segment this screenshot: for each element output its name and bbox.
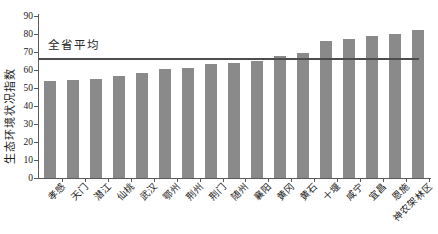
y-axis-line: [38, 14, 39, 179]
y-axis-tick: [34, 52, 38, 53]
bar-4: [113, 76, 125, 178]
x-axis-tick: [429, 179, 430, 182]
bar-2: [67, 80, 79, 178]
x-axis-tick: [245, 179, 246, 182]
y-tick-label: 80: [0, 29, 33, 40]
x-axis-tick: [223, 179, 224, 182]
x-axis-tick: [85, 179, 86, 182]
bar-5: [136, 73, 148, 178]
x-axis-tick: [268, 179, 269, 182]
y-tick-label: 0: [0, 173, 33, 184]
y-tick-label: 60: [0, 65, 33, 76]
bar-1: [44, 81, 56, 178]
bar-chart: 生态环境状况指数 全省平均 0102030405060708090孝感天门潜江仙…: [0, 0, 438, 234]
y-axis-tick: [34, 70, 38, 71]
bar-9: [228, 63, 240, 178]
bar-8: [205, 64, 217, 178]
y-axis-tick: [34, 106, 38, 107]
y-tick-label: 10: [0, 155, 33, 166]
y-axis-tick: [34, 142, 38, 143]
bar-13: [320, 41, 332, 178]
y-tick-label: 40: [0, 101, 33, 112]
x-axis-tick: [360, 179, 361, 182]
y-tick-label: 90: [0, 11, 33, 22]
bar-3: [90, 79, 102, 178]
bar-17: [412, 30, 424, 179]
x-axis-tick: [131, 179, 132, 182]
x-axis-tick: [62, 179, 63, 182]
bar-10: [251, 61, 263, 178]
bar-7: [182, 68, 194, 178]
y-tick-label: 50: [0, 83, 33, 94]
x-axis-tick: [108, 179, 109, 182]
bar-15: [366, 36, 378, 178]
y-axis-tick: [34, 16, 38, 17]
x-axis-tick: [154, 179, 155, 182]
y-tick-label: 30: [0, 119, 33, 130]
x-axis-tick: [406, 179, 407, 182]
x-axis-tick: [291, 179, 292, 182]
x-axis-tick: [314, 179, 315, 182]
average-line-label: 全省平均: [48, 36, 100, 52]
bar-12: [297, 53, 309, 178]
y-axis-tick: [34, 34, 38, 35]
y-tick-label: 70: [0, 47, 33, 58]
y-axis-tick: [34, 124, 38, 125]
x-axis-line: [38, 178, 431, 179]
x-axis-tick: [383, 179, 384, 182]
x-axis-tick: [337, 179, 338, 182]
y-axis-tick: [34, 160, 38, 161]
y-axis-tick: [34, 88, 38, 89]
y-tick-label: 20: [0, 137, 33, 148]
bar-6: [159, 69, 171, 178]
y-axis-tick: [34, 178, 38, 179]
bar-11: [274, 56, 286, 178]
bar-16: [389, 34, 401, 178]
average-line: [39, 58, 419, 60]
x-axis-tick: [200, 179, 201, 182]
x-axis-tick: [177, 179, 178, 182]
